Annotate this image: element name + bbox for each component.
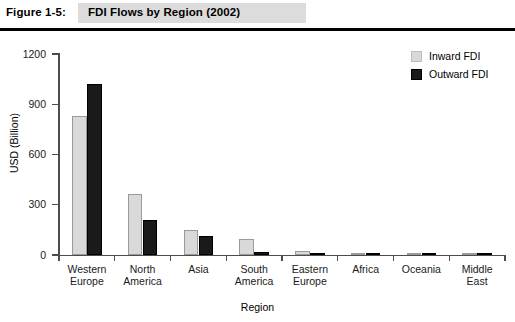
chart-plot-area: 03006009001200 USD (Billion) WesternEuro…	[0, 0, 515, 322]
bar-western-europe-inward-fdi	[72, 116, 87, 255]
bar-middle-east-inward-fdi	[462, 253, 477, 255]
bar-north-america-outward-fdi	[143, 220, 158, 255]
bar-oceania-inward-fdi	[407, 253, 422, 255]
bar-series-layer	[0, 0, 515, 255]
x-tick-label-asia: Asia	[171, 263, 227, 275]
legend-label-outward: Outward FDI	[429, 68, 489, 81]
x-axis-title: Region	[0, 301, 515, 313]
x-tick-1	[114, 255, 115, 261]
x-tick-label-middle-east: MiddleEast	[449, 263, 505, 287]
legend-label-inward: Inward FDI	[429, 50, 480, 63]
bar-oceania-outward-fdi	[422, 253, 437, 255]
bar-south-america-inward-fdi	[239, 239, 254, 255]
bar-eastern-europe-inward-fdi	[295, 251, 310, 255]
bar-asia-outward-fdi	[199, 236, 214, 255]
bar-north-america-inward-fdi	[128, 194, 143, 255]
bar-africa-outward-fdi	[366, 253, 381, 255]
bar-eastern-europe-outward-fdi	[310, 253, 325, 255]
x-tick-label-south-america: SouthAmerica	[226, 263, 282, 287]
x-tick-label-africa: Africa	[338, 263, 394, 275]
legend-item-outward-fdi: Outward FDI	[408, 68, 513, 83]
legend-item-inward-fdi: Inward FDI	[408, 50, 513, 65]
bar-middle-east-outward-fdi	[477, 253, 492, 255]
bar-western-europe-outward-fdi	[87, 84, 102, 255]
chart-legend: Inward FDIOutward FDI	[408, 50, 513, 86]
x-tick-7	[449, 255, 450, 261]
x-tick-4	[281, 255, 282, 261]
x-tick-0	[58, 255, 59, 261]
x-tick-6	[393, 255, 394, 261]
figure-root: Figure 1-5: FDI Flows by Region (2002) 0…	[0, 0, 515, 322]
bar-south-america-outward-fdi	[254, 252, 269, 255]
bar-africa-inward-fdi	[351, 253, 366, 255]
x-tick-label-eastern-europe: EasternEurope	[282, 263, 338, 287]
legend-swatch-outward	[411, 69, 422, 80]
x-tick-5	[337, 255, 338, 261]
x-tick-label-oceania: Oceania	[394, 263, 450, 275]
x-tick-2	[170, 255, 171, 261]
x-tick-3	[226, 255, 227, 261]
x-tick-label-north-america: NorthAmerica	[115, 263, 171, 287]
legend-swatch-inward	[411, 51, 422, 62]
bar-asia-inward-fdi	[184, 230, 199, 255]
x-tick-8	[504, 255, 505, 261]
x-tick-label-western-europe: WesternEurope	[59, 263, 115, 287]
